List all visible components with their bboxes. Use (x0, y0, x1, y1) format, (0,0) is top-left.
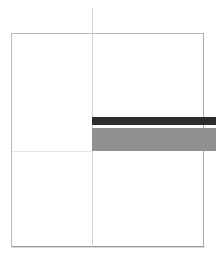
frame-bottom-shadow (12, 247, 205, 248)
figure-root (0, 0, 224, 255)
bar-gray (92, 128, 216, 151)
horizontal-gridline (12, 151, 92, 152)
bar-dark (92, 117, 216, 125)
